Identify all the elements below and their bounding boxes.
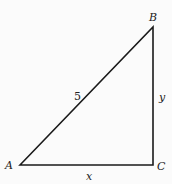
vertex-label-b: B [148,11,157,24]
side-label-bc: y [158,91,166,104]
side-label-ab: 5 [74,90,81,103]
side-label-ac: x [86,170,93,183]
triangle-diagram: A B C 5 y x [0,0,172,184]
vertex-label-a: A [4,159,13,172]
triangle-abc [20,27,153,165]
vertex-label-c: C [157,160,166,173]
